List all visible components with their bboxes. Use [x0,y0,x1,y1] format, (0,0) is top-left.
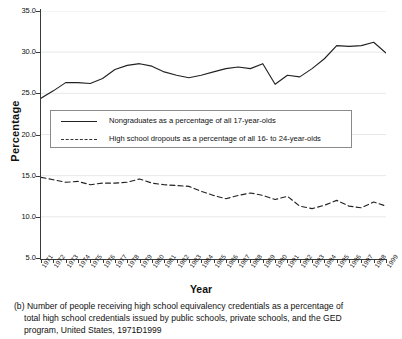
legend-key-solid-line [61,121,97,122]
chart-legend: Nongraduates as a percentage of all 17-y… [50,110,352,148]
legend-item-dropouts: High school dropouts as a percentage of … [51,130,351,149]
y-tick-label: 35.0 [6,7,36,15]
y-tick-label: 10.0 [6,213,36,221]
figure-caption: (b) Number of people receiving high scho… [14,300,394,337]
legend-key-dashed-line [61,139,97,140]
y-tick-mark [36,135,41,136]
series-line-dropouts [41,177,386,208]
caption-line-3: program, United States, 1971Ð1999 [14,324,394,336]
caption-line-2: total high school credentials issued by … [14,312,394,324]
y-tick-label: 15.0 [6,172,36,180]
y-tick-label: 25.0 [6,89,36,97]
legend-item-nongraduates: Nongraduates as a percentage of all 17-y… [51,112,351,131]
legend-label-nongraduates: Nongraduates as a percentage of all 17-y… [109,116,276,125]
y-tick-mark [36,176,41,177]
y-tick-mark [36,217,41,218]
x-tick-label: 1999 [385,253,399,269]
y-tick-mark [36,93,41,94]
y-tick-label: 30.0 [6,48,36,56]
series-line-nongraduates [41,42,386,98]
legend-label-dropouts: High school dropouts as a percentage of … [109,134,321,143]
y-axis-tick-labels: 5.010.015.020.025.030.035.0 [8,0,36,296]
caption-line-1: (b) Number of people receiving high scho… [14,300,394,312]
y-tick-mark [36,11,41,12]
chart-figure: Percentage 5.010.015.020.025.030.035.0 1… [0,0,402,296]
y-tick-mark [36,52,41,53]
figure-panel-b: Percentage 5.010.015.020.025.030.035.0 1… [0,0,402,339]
y-tick-label: 20.0 [6,131,36,139]
x-axis-label: Year [0,283,402,295]
y-tick-mark [36,258,41,259]
